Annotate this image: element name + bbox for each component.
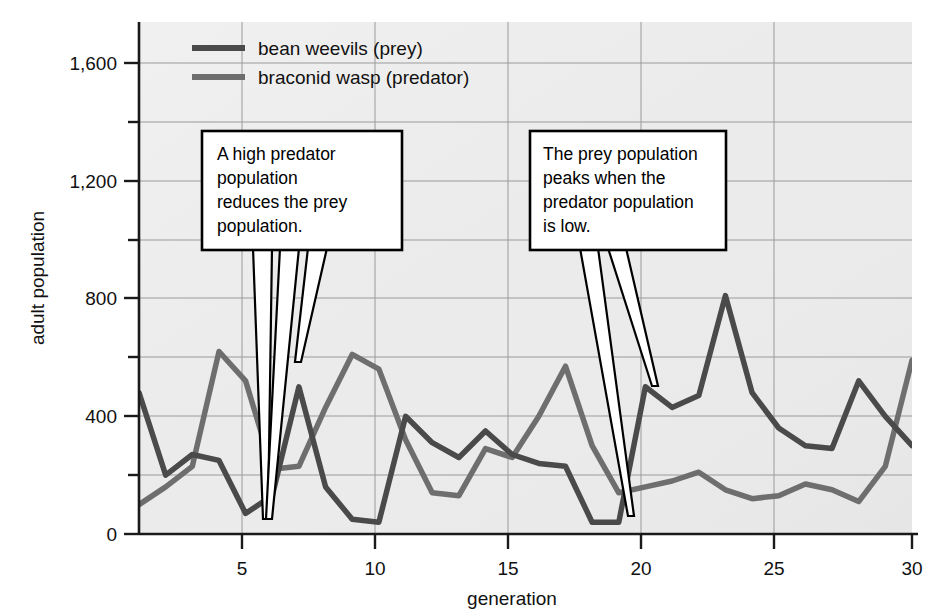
x-axis-ticks bbox=[242, 534, 912, 549]
callout1-line-3: reduces the prey bbox=[217, 192, 348, 212]
x-tick-label-5: 5 bbox=[237, 558, 248, 579]
callout1-line-2: population bbox=[217, 168, 298, 188]
y-tick-label-800: 800 bbox=[85, 288, 117, 309]
legend-label-predator: braconid wasp (predator) bbox=[258, 67, 469, 88]
x-tick-label-30: 30 bbox=[901, 558, 922, 579]
y-tick-label-0: 0 bbox=[106, 524, 117, 545]
callout1-line-4: population. bbox=[217, 216, 303, 236]
x-tick-label-20: 20 bbox=[630, 558, 651, 579]
y-tick-label-1200: 1,200 bbox=[69, 171, 117, 192]
legend-label-prey: bean weevils (prey) bbox=[258, 38, 423, 59]
y-tick-label-400: 400 bbox=[85, 406, 117, 427]
chart-canvas: 1,600 1,200 800 400 0 5 10 15 20 25 30 a… bbox=[0, 0, 939, 614]
x-tick-label-15: 15 bbox=[497, 558, 518, 579]
y-tick-label-1600: 1,600 bbox=[69, 53, 117, 74]
callout1-line-1: A high predator bbox=[217, 144, 336, 164]
y-axis-ticks bbox=[124, 63, 139, 534]
x-tick-label-10: 10 bbox=[364, 558, 385, 579]
callout2-line-3: predator population bbox=[543, 192, 694, 212]
callout2-line-1: The prey population bbox=[543, 144, 698, 164]
x-axis-title: generation bbox=[467, 588, 557, 609]
population-cycles-chart-figure: 1,600 1,200 800 400 0 5 10 15 20 25 30 a… bbox=[0, 0, 939, 614]
callout2-line-4: is low. bbox=[543, 216, 591, 236]
x-tick-label-25: 25 bbox=[763, 558, 784, 579]
y-axis-title: adult population bbox=[27, 211, 48, 345]
callout2-line-2: peaks when the bbox=[543, 168, 666, 188]
